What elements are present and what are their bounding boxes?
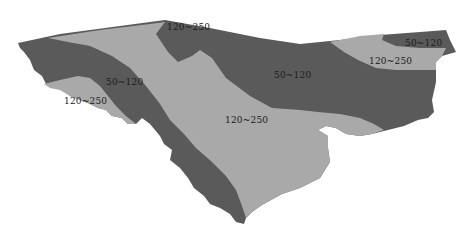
label-upper-right: 50~120	[405, 38, 442, 48]
label-center-light: 120~250	[225, 115, 268, 125]
zoning-map: 120~250 50~120 120~250 50~120 50~120 120…	[0, 0, 476, 230]
label-right-middle: 120~250	[369, 56, 412, 66]
label-center: 50~120	[274, 70, 311, 80]
label-left-dark: 50~120	[106, 77, 143, 87]
label-top-center: 120~250	[167, 22, 210, 32]
label-left-light: 120~250	[64, 96, 107, 106]
